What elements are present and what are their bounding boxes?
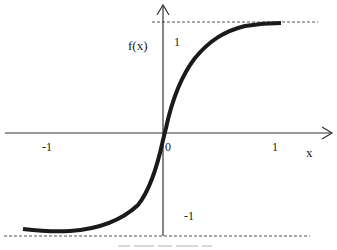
y-tick-neg-one: -1 [184, 210, 194, 222]
y-axis-label: f(x) [128, 39, 148, 52]
x-tick-neg-one: -1 [42, 141, 52, 153]
x-tick-pos-one: 1 [272, 141, 278, 153]
clipped-caption [118, 245, 218, 250]
sigmoid-chart [0, 0, 337, 250]
y-tick-pos-one: 1 [174, 36, 180, 48]
sigmoid-curve [23, 23, 281, 231]
x-tick-zero: 0 [165, 141, 171, 153]
x-axis-label: x [306, 146, 313, 159]
